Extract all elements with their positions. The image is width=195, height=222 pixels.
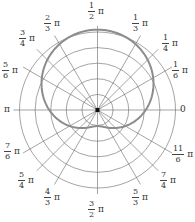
angle-label-pi-4: 14π xyxy=(162,34,178,53)
angle-label-7pi-4: 74π xyxy=(160,171,176,190)
ray-60 xyxy=(98,36,141,110)
ray-330 xyxy=(98,110,172,153)
angle-label-3pi-2: 32π xyxy=(88,200,104,219)
angle-label-5pi-6: 56π xyxy=(2,61,18,80)
ray-225 xyxy=(37,110,98,171)
angle-label-5pi-3: 53π xyxy=(132,188,148,207)
ray-135 xyxy=(37,49,98,110)
polar-diagram: 0 16π 14π 13π 12π 23π 34π 56π π 76π 54π … xyxy=(0,0,195,222)
ray-315 xyxy=(98,110,159,171)
angle-label-4pi-3: 43π xyxy=(44,188,60,207)
ray-210 xyxy=(23,110,97,153)
angle-label-5pi-4: 54π xyxy=(18,171,34,190)
angle-label-pi-6: 16π xyxy=(172,61,188,80)
angle-label-pi-2: 12π xyxy=(88,2,104,21)
ray-120 xyxy=(55,36,98,110)
ray-150 xyxy=(23,67,97,110)
angle-label-pi-3: 13π xyxy=(132,14,148,33)
origin-marker xyxy=(96,108,100,112)
angle-label-11pi-6: 116π xyxy=(172,145,193,164)
ray-30 xyxy=(98,67,172,110)
angle-label-0: 0 xyxy=(180,105,186,114)
angle-label-2pi-3: 23π xyxy=(44,14,60,33)
angle-label-pi: π xyxy=(4,105,10,114)
angle-label-3pi-4: 34π xyxy=(19,29,35,48)
ray-45 xyxy=(98,49,159,110)
angle-label-7pi-6: 76π xyxy=(4,142,20,161)
